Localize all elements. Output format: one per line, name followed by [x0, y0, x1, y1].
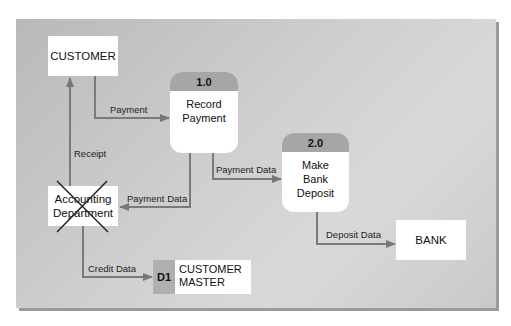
flow-label-receipt: Receipt	[74, 148, 106, 159]
process-label: Make Bank Deposit	[282, 152, 349, 212]
process-record-payment[interactable]: 1.0 Record Payment	[170, 72, 238, 153]
data-store-label: CUSTOMER MASTER	[175, 260, 251, 294]
process-number: 2.0	[282, 133, 349, 152]
data-store-customer-master[interactable]: D1 CUSTOMER MASTER	[153, 260, 251, 294]
process-number: 1.0	[170, 72, 238, 91]
data-store-id: D1	[153, 260, 175, 294]
cross-out-icon	[0, 0, 511, 326]
flow-label-payment-data-p2: Payment Data	[216, 164, 276, 175]
flow-label-payment: Payment	[110, 104, 148, 115]
flow-label-deposit-data: Deposit Data	[326, 229, 381, 240]
process-make-bank-deposit[interactable]: 2.0 Make Bank Deposit	[282, 133, 349, 212]
process-label: Record Payment	[170, 91, 238, 153]
flow-label-credit-data: Credit Data	[88, 263, 136, 274]
flow-label-payment-data-accounting: Payment Data	[127, 193, 187, 204]
